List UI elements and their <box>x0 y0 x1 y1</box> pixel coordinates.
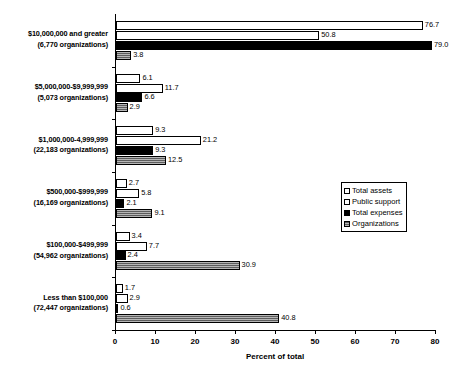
bar <box>116 261 240 270</box>
legend-label: Total expenses <box>352 208 403 218</box>
bar-row: 12.5 <box>116 156 436 165</box>
category-label-line1: $10,000,000 and greater <box>28 29 108 38</box>
bar-row: 21.2 <box>116 136 436 145</box>
bar-row: 2.4 <box>116 251 436 260</box>
y-axis-tick <box>112 172 116 173</box>
bar-value-label: 9.1 <box>154 208 164 218</box>
bar-chart: $10,000,000 and greater(6,770 organizati… <box>0 0 451 382</box>
x-axis-tick <box>115 330 116 334</box>
x-axis-tick-label: 40 <box>271 337 280 346</box>
x-axis-tick <box>155 330 156 334</box>
legend-swatch-white-outline <box>344 188 350 194</box>
bar-row: 79.0 <box>116 41 436 50</box>
plot-area: 76.750.879.03.86.111.76.62.99.321.29.312… <box>115 14 435 330</box>
category-label-line1: $5,000,000-$9,999,999 <box>35 82 108 91</box>
bar-value-label: 79.0 <box>434 40 448 50</box>
bar-row: 7.7 <box>116 242 436 251</box>
bar <box>116 284 123 293</box>
bar <box>116 242 147 251</box>
bar-value-label: 1.7 <box>125 283 135 293</box>
y-axis-tick <box>112 119 116 120</box>
bar <box>116 84 163 93</box>
legend-swatch-white-outline <box>344 199 350 205</box>
bar-group: 1.72.90.640.8 <box>116 284 435 322</box>
bar-value-label: 0.6 <box>120 303 130 313</box>
bar-row: 9.3 <box>116 146 436 155</box>
x-axis-tick-label: 30 <box>231 337 240 346</box>
x-axis-tick-label: 60 <box>351 337 360 346</box>
bar <box>116 41 432 50</box>
category-label-line2: (5,073 organizations) <box>0 93 108 104</box>
bar-group: 6.111.76.62.9 <box>116 74 435 112</box>
bar <box>116 156 166 165</box>
x-axis-tick <box>355 330 356 334</box>
bar <box>116 294 128 303</box>
category-label: $1,000,000-4,999,999(22,183 organization… <box>0 135 108 156</box>
y-axis-tick <box>112 225 116 226</box>
x-axis-tick <box>435 330 436 334</box>
bar <box>116 199 124 208</box>
bar-value-label: 9.3 <box>155 145 165 155</box>
bar-row: 3.8 <box>116 51 436 60</box>
bar <box>116 21 423 30</box>
bar-value-label: 2.9 <box>130 293 140 303</box>
x-axis-tick-label: 0 <box>113 337 117 346</box>
bar-row: 30.9 <box>116 261 436 270</box>
legend-item: Organizations <box>344 218 403 229</box>
category-label-line1: $1,000,000-4,999,999 <box>39 135 108 144</box>
bar <box>116 31 319 40</box>
bar <box>116 103 128 112</box>
y-axis-tick <box>112 67 116 68</box>
bar-value-label: 3.4 <box>132 231 142 241</box>
bar <box>116 146 153 155</box>
legend-item: Total expenses <box>344 207 403 218</box>
bar-value-label: 21.2 <box>203 135 217 145</box>
x-axis-tick-label: 20 <box>191 337 200 346</box>
bar-group: 76.750.879.03.8 <box>116 21 435 59</box>
legend-item: Total assets <box>344 185 403 196</box>
bar <box>116 74 140 83</box>
bar-value-label: 12.5 <box>168 155 182 165</box>
bar-value-label: 2.7 <box>129 178 139 188</box>
bar-value-label: 2.9 <box>130 102 140 112</box>
x-axis-tick <box>235 330 236 334</box>
category-label-line2: (16,169 organizations) <box>0 198 108 209</box>
bar-row: 11.7 <box>116 84 436 93</box>
legend-swatch-solid-black <box>344 210 350 216</box>
bar-value-label: 2.1 <box>126 198 136 208</box>
category-label: $500,000-$999,999(16,169 organizations) <box>0 187 108 208</box>
bar <box>116 93 142 102</box>
bar-row: 3.4 <box>116 232 436 241</box>
x-axis-tick-label: 10 <box>151 337 160 346</box>
category-label-line2: (54,962 organizations) <box>0 251 108 262</box>
bar-row: 1.7 <box>116 284 436 293</box>
x-axis-tick-label: 70 <box>391 337 400 346</box>
bar-row: 2.9 <box>116 294 436 303</box>
bar-value-label: 11.7 <box>165 83 179 93</box>
category-label: $5,000,000-$9,999,999(5,073 organization… <box>0 82 108 103</box>
legend-label: Public support <box>352 197 400 207</box>
category-label-line1: Less than $100,000 <box>43 293 108 302</box>
bar <box>116 179 127 188</box>
bar <box>116 126 153 135</box>
bar-value-label: 6.1 <box>142 73 152 83</box>
x-axis-tick <box>195 330 196 334</box>
bar-row: 9.3 <box>116 126 436 135</box>
bar <box>116 314 279 323</box>
bar-group: 3.47.72.430.9 <box>116 232 435 270</box>
bar-value-label: 76.7 <box>425 20 439 30</box>
bar-value-label: 2.4 <box>128 250 138 260</box>
bar-value-label: 7.7 <box>149 241 159 251</box>
bar-row: 0.6 <box>116 304 436 313</box>
legend-swatch-gray-hatch <box>344 221 350 227</box>
bar-row: 40.8 <box>116 314 436 323</box>
bar-group: 9.321.29.312.5 <box>116 126 435 164</box>
bar <box>116 209 152 218</box>
bar-value-label: 40.8 <box>281 313 295 323</box>
x-axis-tick <box>315 330 316 334</box>
bar <box>116 136 201 145</box>
bar-row: 6.1 <box>116 74 436 83</box>
category-label-line2: (72,447 organizations) <box>0 303 108 314</box>
chart-legend: Total assetsPublic supportTotal expenses… <box>341 182 407 232</box>
category-label-line1: $500,000-$999,999 <box>46 187 108 196</box>
